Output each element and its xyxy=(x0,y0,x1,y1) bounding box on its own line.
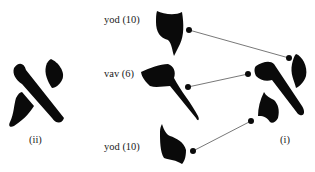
leader-line-vav xyxy=(188,74,248,87)
aleph-glyph-ii xyxy=(9,59,64,127)
dot-yod-bottom-source xyxy=(190,148,196,154)
label-yod-bottom: yod (10) xyxy=(104,141,140,152)
vav-glyph xyxy=(141,64,199,120)
leader-lines xyxy=(188,30,289,151)
dot-yod-bottom-target xyxy=(248,118,254,124)
leader-dots xyxy=(185,27,292,154)
leader-line-yod-top xyxy=(189,30,289,58)
dot-yod-top-target xyxy=(286,55,292,61)
dot-yod-top-source xyxy=(186,27,192,33)
label-yod-top: yod (10) xyxy=(104,14,140,25)
caption-i: (i) xyxy=(280,134,290,145)
yod-top-glyph xyxy=(156,11,183,56)
dot-vav-source xyxy=(185,84,191,90)
label-vav: vav (6) xyxy=(104,68,134,79)
leader-line-yod-bottom xyxy=(193,121,251,151)
yod-bottom-glyph xyxy=(160,124,186,164)
caption-ii: (ii) xyxy=(29,134,42,145)
dot-vav-target xyxy=(245,71,251,77)
aleph-diagram xyxy=(0,0,315,172)
aleph-glyph-i xyxy=(255,54,307,123)
